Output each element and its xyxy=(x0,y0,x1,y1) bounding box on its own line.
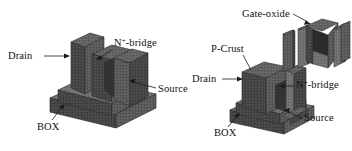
semiconductor-device-figure: Drain N+-bridge Source BOX Gate-oxide P-… xyxy=(0,0,352,151)
gate-oxide-plates-illustration xyxy=(282,16,352,78)
label-left-source: Source xyxy=(158,83,188,94)
label-right-gate-oxide: Gate-oxide xyxy=(242,8,290,19)
label-left-box-text: BOX xyxy=(37,121,59,132)
label-right-n-bridge: N+-bridge xyxy=(296,79,339,90)
label-right-box: BOX xyxy=(214,127,236,138)
label-right-n-bridge-n: N xyxy=(296,79,304,90)
label-right-drain: Drain xyxy=(192,73,216,84)
label-left-source-text: Source xyxy=(158,83,188,94)
label-left-n-bridge-n: N xyxy=(114,37,122,48)
label-left-drain-text: Drain xyxy=(8,50,32,61)
label-left-drain: Drain xyxy=(8,50,32,61)
label-left-n-bridge-suffix: -bridge xyxy=(126,37,157,48)
label-right-source-text: Source xyxy=(304,112,334,123)
label-right-box-text: BOX xyxy=(214,127,236,138)
label-right-n-bridge-suffix: -bridge xyxy=(308,79,339,90)
label-right-p-crust: P-Crust xyxy=(211,43,244,54)
label-right-drain-text: Drain xyxy=(192,73,216,84)
gate-oxide-plates-geometry xyxy=(282,16,352,78)
label-left-box: BOX xyxy=(37,121,59,132)
label-right-p-crust-text: P-Crust xyxy=(211,43,244,54)
label-right-gate-oxide-text: Gate-oxide xyxy=(242,8,290,19)
label-right-source: Source xyxy=(304,112,334,123)
label-left-n-bridge: N+-bridge xyxy=(114,37,157,48)
